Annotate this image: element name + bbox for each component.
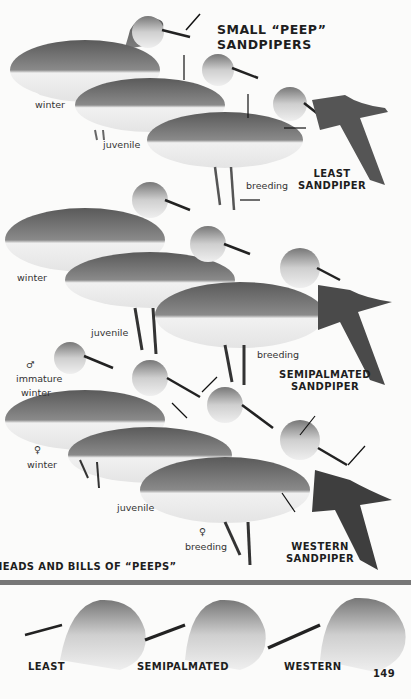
species-name-line2: SANDPIPER bbox=[270, 553, 370, 565]
species-name-line1: LEAST bbox=[292, 168, 372, 180]
species-name-line2: SANDPIPER bbox=[292, 180, 372, 192]
species-name-line2: SANDPIPER bbox=[265, 381, 385, 393]
female-symbol-breeding: ♀ bbox=[199, 526, 206, 537]
least-winter-label: winter bbox=[35, 99, 65, 110]
species-name-line1: SEMIPALMATED bbox=[265, 369, 385, 381]
western-breeding-label: breeding bbox=[185, 541, 227, 552]
head-label-semipalmated: SEMIPALMATED bbox=[137, 661, 229, 673]
semipalmated-sandpiper-name: SEMIPALMATED SANDPIPER bbox=[265, 369, 385, 393]
western-sandpiper-name: WESTERN SANDPIPER bbox=[270, 541, 370, 565]
page-title: SMALL “PEEP” SANDPIPERS bbox=[217, 22, 411, 52]
section-divider bbox=[0, 580, 411, 585]
species-name-line1: WESTERN bbox=[270, 541, 370, 553]
page-number: 149 bbox=[373, 668, 395, 680]
semipalmated-breeding-label: breeding bbox=[257, 349, 299, 360]
semipalmated-winter-label: winter bbox=[17, 272, 47, 283]
semipalmated-juvenile-label: juvenile bbox=[91, 327, 128, 338]
least-juvenile-label: juvenile bbox=[103, 139, 140, 150]
least-breeding-label: breeding bbox=[246, 180, 288, 191]
female-symbol: ♀ bbox=[34, 444, 41, 455]
western-juvenile-label: juvenile bbox=[117, 502, 154, 513]
head-label-western: WESTERN bbox=[284, 661, 342, 673]
immature-winter-label: winter bbox=[21, 387, 51, 398]
section-heading: HEADS AND BILLS OF “PEEPS” bbox=[0, 561, 176, 573]
male-symbol: ♂ bbox=[26, 359, 35, 370]
head-label-least: LEAST bbox=[28, 661, 65, 673]
immature-label: immature bbox=[16, 373, 62, 384]
least-sandpiper-name: LEAST SANDPIPER bbox=[292, 168, 372, 192]
western-winter-label: winter bbox=[27, 459, 57, 470]
